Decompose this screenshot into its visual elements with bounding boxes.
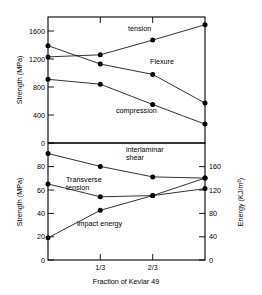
figure-container: 1600 1200 800 400 0 Strength (MPa): [0, 0, 262, 295]
series-label-transverse-line2: tension: [66, 183, 89, 192]
series-label-compression: compression: [116, 106, 157, 115]
bottom-ytick-60: 60: [37, 186, 45, 195]
bottom-ytick-80: 80: [37, 162, 45, 171]
series-tension: [46, 22, 208, 59]
top-panel-frame: [48, 17, 205, 143]
bottom-panel-y-tick-labels-right: 160 120 80 40 0: [209, 162, 221, 264]
top-ytick-800: 800: [33, 83, 45, 92]
series-label-interlaminar-line2: shear: [126, 153, 145, 162]
top-ytick-1200: 1200: [29, 55, 45, 64]
bottom-panel-x-ticks: [100, 254, 152, 260]
top-ytick-400: 400: [33, 111, 45, 120]
series-label-tension: tension: [128, 24, 151, 33]
bottom-ytick-right-160: 160: [209, 162, 221, 171]
bottom-panel-y-axis-title-right: Energy (KJ/m²): [236, 178, 245, 226]
top-panel-y-axis-title: Strength (MPa): [15, 56, 24, 105]
top-panel: 1600 1200 800 400 0 Strength (MPa): [15, 17, 208, 148]
bottom-panel-x-axis-title: Fraction of Kevlar 49: [93, 277, 159, 286]
top-panel-y-tick-labels: 1600 1200 800 400 0: [29, 27, 45, 148]
series-label-flexure: Flexure: [150, 57, 174, 66]
bottom-ytick-right-0: 0: [209, 256, 213, 265]
series-compression: [46, 77, 208, 127]
bottom-panel-y-tick-labels-left: 80 60 40 20 0: [37, 162, 45, 264]
bottom-xtick-two-thirds: 2/3: [148, 263, 158, 272]
bottom-panel: 80 60 40 20 0 Strength (MPa) 160 120 80 …: [15, 143, 245, 286]
bottom-ytick-40: 40: [37, 209, 45, 218]
top-ytick-0: 0: [41, 139, 45, 148]
bottom-ytick-right-120: 120: [209, 186, 221, 195]
composite-properties-chart: 1600 1200 800 400 0 Strength (MPa): [0, 0, 262, 295]
series-label-impact-energy: impact energy: [77, 219, 123, 228]
top-panel-x-ticks: [100, 17, 152, 23]
bottom-panel-x-tick-labels: 1/3 2/3: [95, 263, 157, 272]
bottom-xtick-one-third: 1/3: [95, 263, 105, 272]
bottom-panel-y-ticks-right: [199, 167, 205, 260]
bottom-ytick-20: 20: [37, 232, 45, 241]
bottom-panel-y-axis-title: Strength (MPa): [15, 178, 24, 227]
series-flexure: [46, 43, 208, 105]
top-ytick-1600: 1600: [29, 27, 45, 36]
bottom-ytick-right-80: 80: [209, 209, 217, 218]
bottom-ytick-right-40: 40: [209, 232, 217, 241]
bottom-panel-y-ticks-left: [48, 167, 54, 260]
bottom-ytick-0: 0: [41, 256, 45, 265]
